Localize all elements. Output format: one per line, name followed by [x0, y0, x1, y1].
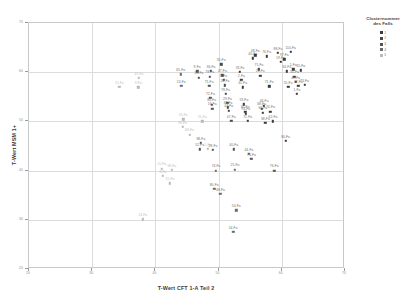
data-point-label: 23-Fa: [208, 144, 217, 148]
y-axis-tick: [25, 268, 28, 269]
data-point: [213, 188, 215, 190]
data-point-label: 45-Fa: [135, 72, 144, 76]
data-point: [284, 140, 286, 142]
legend-row[interactable]: 3: [380, 42, 386, 46]
legend-label: 2: [384, 36, 386, 40]
data-point: [273, 169, 275, 171]
data-point-label: 88-Fa: [274, 47, 283, 51]
data-point-label: 1-Fa: [293, 88, 300, 92]
data-point-label: 41-Fa: [238, 81, 247, 85]
data-point: [241, 86, 243, 88]
data-point: [263, 104, 265, 106]
data-point-label: 55-Fa: [284, 81, 293, 85]
data-point: [233, 148, 235, 150]
y-axis-tick: [25, 170, 28, 171]
data-point-label: 35-Fa: [217, 58, 226, 62]
legend-title: Clusternummer des Falls: [352, 16, 414, 27]
data-point-label: 80-Fa: [210, 183, 219, 187]
x-axis-tick-label: 40: [152, 271, 156, 275]
legend-row[interactable]: 2: [380, 36, 386, 40]
legend-label: 4: [384, 48, 386, 52]
data-point: [210, 70, 212, 72]
data-point-label: 71-Fa: [265, 80, 274, 84]
y-axis-title: T-Wert MSM 1+: [11, 125, 17, 165]
data-point: [228, 109, 230, 111]
legend: Clusternummer des Falls 12345: [352, 16, 414, 57]
data-point: [259, 74, 261, 76]
data-point: [272, 120, 274, 122]
data-point: [219, 193, 221, 195]
data-point-label: 90-Fa: [178, 121, 187, 125]
data-point: [252, 57, 254, 59]
legend-swatch: [380, 48, 383, 51]
y-axis-tick: [25, 120, 28, 121]
data-point-label: 52-Fa: [195, 143, 204, 147]
data-point: [198, 76, 200, 78]
data-point: [181, 126, 183, 128]
data-point: [268, 85, 270, 87]
y-axis-tick-label: 60: [19, 69, 23, 73]
legend-swatch: [380, 37, 383, 40]
data-point-label: 54-Fa: [229, 226, 238, 230]
data-point: [162, 175, 164, 177]
legend-row[interactable]: 1: [380, 31, 386, 35]
data-point-label: 97-Fa: [280, 53, 289, 57]
gridline-horizontal: [29, 220, 343, 221]
data-point-label: 20-Fa: [195, 71, 204, 75]
data-point: [171, 169, 173, 171]
data-point-label: 33-Fa: [236, 66, 245, 70]
data-point: [138, 77, 140, 79]
legend-row[interactable]: 4: [380, 48, 386, 52]
data-point: [188, 133, 190, 135]
x-axis-title: T-Wert CFT 1-A Teil 2: [158, 285, 215, 291]
x-axis-tick-label: 20: [26, 271, 30, 275]
y-axis-tick-label: 40: [19, 168, 23, 172]
legend-swatch: [380, 31, 383, 34]
data-point-label: 59-Fa: [239, 98, 248, 102]
data-point: [207, 148, 209, 150]
data-point-label: 78-Fa: [221, 88, 230, 92]
data-point: [279, 61, 281, 63]
data-point: [211, 107, 213, 109]
data-point: [215, 169, 217, 171]
data-point-label: 9-Fa: [135, 81, 142, 85]
legend-swatch: [380, 43, 383, 46]
data-point-label: 80-Fa: [281, 135, 290, 139]
data-point: [300, 69, 302, 71]
data-point-label: 35-Fa: [290, 70, 299, 74]
data-point: [269, 110, 271, 112]
data-point-label: 9-Fa: [194, 65, 201, 69]
data-point-label: 14-Fa: [138, 213, 147, 217]
data-point-label: 35-Fa: [296, 64, 305, 68]
data-point: [254, 54, 256, 56]
x-axis-tick-label: 70: [342, 271, 346, 275]
x-axis-tick-label: 30: [89, 271, 93, 275]
data-point: [208, 85, 210, 87]
legend-label: 1: [384, 31, 386, 35]
y-axis-tick: [25, 219, 28, 220]
data-point: [289, 51, 291, 53]
legend-title-line-2: des Falls: [352, 21, 414, 26]
data-point: [212, 149, 214, 151]
data-point: [169, 182, 171, 184]
data-point-label: 74-Fa: [212, 164, 221, 168]
data-point: [246, 120, 248, 122]
data-point: [283, 58, 285, 60]
data-point-label: 76-Fa: [262, 50, 271, 54]
data-point-label: 28-Fa: [256, 69, 265, 73]
data-point-label: 25-Fa: [198, 115, 207, 119]
data-point-label: 15-Fa: [157, 162, 166, 166]
plot-area: 12-Fa45-Fa9-Fa65-Fa24-Fa35-Fa90-Fa68-Fa9…: [28, 22, 344, 268]
y-axis-tick: [25, 22, 28, 23]
data-point-label: 73-Fa: [300, 79, 309, 83]
data-point-label: 68-Fa: [185, 128, 194, 132]
data-point: [264, 122, 266, 124]
data-point-label: 24-Fa: [177, 80, 186, 84]
data-point: [201, 120, 203, 122]
data-point: [142, 218, 144, 220]
y-axis-tick-label: 50: [19, 118, 23, 122]
data-point: [230, 120, 232, 122]
legend-row[interactable]: 5: [380, 53, 386, 57]
data-point: [262, 111, 264, 113]
data-point: [137, 86, 139, 88]
